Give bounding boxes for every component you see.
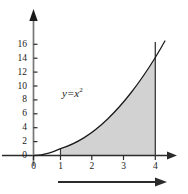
y-tick-label-12: 12: [7, 68, 27, 78]
y-tick-label-4: 4: [7, 123, 27, 133]
function-equation-base: y=x: [62, 87, 79, 99]
interval-arrowhead-icon: [155, 177, 167, 186]
x-tick-label-3: 3: [116, 162, 132, 172]
x-tick-label-4: 4: [147, 162, 163, 172]
y-tick-label-16: 16: [7, 40, 27, 50]
x-axis-arrowhead-icon: [167, 151, 177, 159]
y-tick-label-2: 2: [7, 137, 27, 147]
function-plot-figure: 16 14 12 10 8 6 4 2 0 0 1 2 3 4 y=x2: [0, 0, 188, 194]
x-tick-label-0: 0: [26, 162, 42, 172]
function-equation-label: y=x2: [62, 88, 83, 99]
y-tick-label-0: 0: [7, 151, 27, 161]
y-tick-label-8: 8: [7, 95, 27, 105]
y-axis-arrowhead-icon: [29, 9, 37, 21]
y-tick-label-14: 14: [7, 54, 27, 64]
x-tick-label-2: 2: [84, 162, 100, 172]
y-tick-label-10: 10: [7, 82, 27, 92]
x-tick-label-1: 1: [53, 162, 69, 172]
interval-arrow-annotation: [58, 177, 167, 186]
y-tick-label-6: 6: [7, 109, 27, 119]
shaded-area-under-curve: [61, 58, 156, 156]
function-equation-exponent: 2: [79, 86, 83, 94]
